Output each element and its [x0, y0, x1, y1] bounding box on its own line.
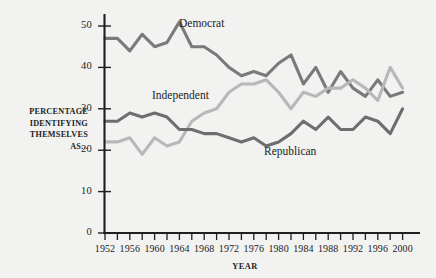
x-tick-label: 2000 — [386, 243, 420, 254]
y-tick-label: 50 — [66, 19, 92, 30]
y-tick-label: 20 — [66, 143, 92, 154]
series-label-independent: Independent — [152, 89, 209, 101]
y-tick-label: 30 — [66, 102, 92, 113]
y-axis-title-line-2: IDENTIFYING — [8, 118, 88, 130]
y-tick-label: 40 — [66, 60, 92, 71]
chart-figure: PERCENTAGE IDENTIFYING THEMSELVES AS... … — [0, 0, 436, 278]
y-tick-label: 10 — [66, 185, 92, 196]
y-tick-label: 0 — [66, 226, 92, 237]
x-axis-title: YEAR — [215, 262, 275, 271]
y-axis-title-line-3: THEMSELVES — [8, 129, 88, 141]
series-label-democrat: Democrat — [179, 17, 224, 29]
series-label-republican: Republican — [264, 145, 316, 157]
